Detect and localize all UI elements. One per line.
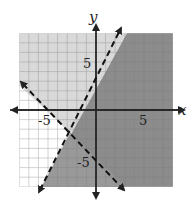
- y-axis-label: y: [88, 8, 98, 26]
- x-tick-neg5: -5: [38, 113, 51, 128]
- y-tick-5: 5: [83, 56, 91, 71]
- y-tick-neg5: -5: [77, 155, 90, 170]
- inequality-graph: x y 5 -5 5 -5: [0, 0, 194, 208]
- x-tick-5: 5: [139, 113, 147, 128]
- x-axis-label: x: [178, 101, 187, 119]
